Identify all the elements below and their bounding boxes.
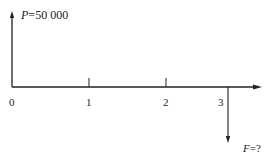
cash-flow-diagram	[0, 0, 269, 158]
present-value-label: P=50 000	[21, 9, 68, 21]
future-value-arrowhead	[226, 136, 230, 143]
future-value-symbol: F	[243, 142, 250, 154]
tick-label-3: 3	[218, 96, 224, 108]
present-value-amount: 50 000	[35, 8, 68, 22]
time-axis-arrowhead	[253, 85, 262, 90]
present-value-arrowhead	[10, 11, 14, 18]
tick-label-1: 1	[86, 96, 92, 108]
future-value-label: F=?	[243, 142, 261, 154]
tick-label-2: 2	[163, 96, 169, 108]
tick-label-0: 0	[9, 96, 15, 108]
